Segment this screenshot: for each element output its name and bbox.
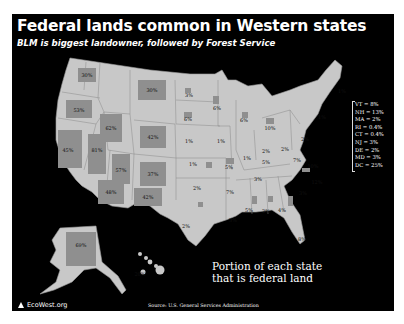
- label-nc: 12%: [311, 179, 322, 185]
- legend-item-dc: DC = 25%: [355, 162, 384, 170]
- label-ca: 45%: [62, 147, 73, 153]
- label-mn: 6%: [213, 105, 221, 111]
- legend-item-vt: VT = 8%: [355, 101, 384, 109]
- label-la: 3%: [229, 217, 237, 223]
- label-ga: 4%: [278, 207, 286, 213]
- label-ok: 2%: [193, 185, 201, 191]
- logo-mountain-icon: [18, 302, 24, 308]
- legend-item-nj: NJ = 3%: [355, 139, 384, 147]
- label-or: 53%: [73, 107, 84, 113]
- label-ia: 1%: [217, 138, 225, 144]
- label-wi: 6%: [240, 117, 248, 123]
- label-il: 1%: [243, 155, 251, 161]
- caption-line-1: Portion of each state: [212, 260, 322, 272]
- label-co: 37%: [147, 171, 158, 177]
- label-ky: 5%: [262, 159, 270, 165]
- label-nv: 81%: [91, 147, 102, 153]
- label-al: 2%: [262, 208, 270, 214]
- label-nm: 42%: [142, 194, 153, 200]
- label-oh: 2%: [281, 146, 289, 152]
- label-ny: 1%: [318, 114, 326, 120]
- legend-item-de: DE = 2%: [355, 147, 384, 155]
- label-me: 1%: [338, 88, 346, 94]
- label-ms: 5%: [245, 207, 253, 213]
- source-credit: Source: U.S. General Services Administra…: [148, 303, 259, 308]
- label-ak: 69%: [75, 242, 86, 248]
- label-hi: 20%: [134, 271, 145, 277]
- label-wv: 7%: [293, 157, 301, 163]
- label-mt: 30%: [146, 87, 157, 93]
- label-ut: 57%: [115, 167, 126, 173]
- caption-line-2: that is federal land: [212, 272, 322, 284]
- label-mi: 10%: [264, 125, 275, 131]
- legend-item-ri: RI = 0.4%: [355, 124, 384, 132]
- us-map: 30% 53% 62% 30% 42% 45% 81% 57% 37% 48% …: [0, 0, 404, 324]
- legend-item-ma: MA = 2%: [355, 116, 384, 124]
- legend-item-ct: CT = 0.4%: [355, 131, 384, 139]
- map-title: Federal lands common in Western states: [17, 17, 366, 35]
- legend-item-md: MD = 3%: [355, 154, 384, 162]
- nv-federal: [88, 134, 106, 174]
- label-nd: 3%: [185, 92, 193, 98]
- small-states-legend: VT = 8% NH = 13% MA = 2% RI = 0.4% CT = …: [355, 101, 384, 169]
- label-az: 48%: [105, 189, 116, 195]
- logo-text: EcoWest.org: [27, 301, 67, 309]
- label-in: 2%: [262, 148, 270, 154]
- label-fl: 8%: [298, 236, 306, 242]
- label-mo: 5%: [225, 164, 233, 170]
- map-subtitle: BLM is biggest landowner, followed by Fo…: [17, 38, 275, 48]
- label-wa: 30%: [81, 72, 92, 78]
- legend-item-nh: NH = 13%: [355, 109, 384, 117]
- label-pa: 2%: [301, 136, 309, 142]
- label-id: 62%: [105, 125, 116, 131]
- label-ar: 7%: [226, 189, 234, 195]
- label-ne: 1%: [185, 138, 193, 144]
- label-va: 10%: [307, 163, 318, 169]
- ecowest-logo[interactable]: EcoWest.org: [18, 301, 67, 309]
- label-sd: 6%: [184, 116, 192, 122]
- label-ks: 1%: [189, 161, 197, 167]
- label-tn: 3%: [254, 176, 262, 182]
- map-caption: Portion of each state that is federal la…: [212, 260, 322, 284]
- label-wy: 42%: [147, 134, 158, 140]
- label-sc: 3%: [299, 190, 307, 196]
- label-tx: 2%: [182, 223, 190, 229]
